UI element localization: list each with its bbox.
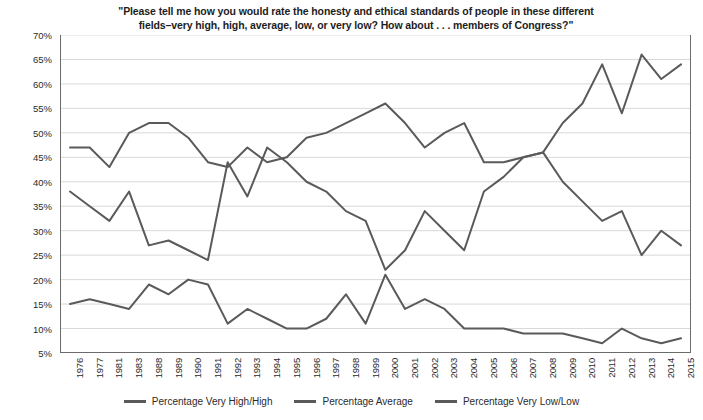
x-axis-tick-label: 2013 — [646, 358, 657, 378]
series-line — [70, 55, 681, 168]
legend-item[interactable]: Percentage Average — [294, 396, 412, 407]
x-axis-tick-label: 1996 — [311, 358, 322, 378]
chart-title-line-2: fields–very high, high, average, low, or… — [86, 18, 626, 32]
x-axis-tick-label: 2000 — [389, 358, 400, 378]
chart-legend: Percentage Very High/HighPercentage Aver… — [0, 396, 703, 407]
y-axis-tick-label: 45% — [14, 152, 52, 163]
x-axis-tick-label: 1981 — [113, 358, 124, 378]
chart-title: "Please tell me how you would rate the h… — [86, 4, 626, 32]
x-axis-tick-label: 1998 — [350, 358, 361, 378]
plot-area — [60, 35, 691, 353]
x-axis-tick-label: 2015 — [685, 358, 696, 378]
legend-swatch-icon — [294, 400, 316, 403]
x-axis-tick-label: 2002 — [429, 358, 440, 378]
x-axis-tick-label: 1988 — [153, 358, 164, 378]
x-axis-tick-label: 2011 — [606, 358, 617, 378]
legend-swatch-icon — [435, 400, 457, 403]
series-line — [70, 275, 681, 344]
x-axis-tick-label: 1993 — [251, 358, 262, 378]
x-axis-tick-label: 1983 — [133, 358, 144, 378]
y-axis-tick-label: 25% — [14, 250, 52, 261]
x-axis-tick-label: 2010 — [586, 358, 597, 378]
y-axis-tick-label: 40% — [14, 176, 52, 187]
x-axis-tick-label: 2004 — [468, 358, 479, 378]
chart-title-line-1: "Please tell me how you would rate the h… — [86, 4, 626, 18]
y-axis-tick-label: 15% — [14, 299, 52, 310]
x-axis-tick-label: 1995 — [291, 358, 302, 378]
x-axis-tick-label: 2009 — [567, 358, 578, 378]
legend-item[interactable]: Percentage Very Low/Low — [435, 396, 579, 407]
x-axis-tick-label: 1977 — [94, 358, 105, 378]
y-axis: 70%65%60%55%50%45%40%35%30%25%20%15%10%5… — [8, 35, 52, 353]
y-axis-tick-label: 10% — [14, 323, 52, 334]
legend-label: Percentage Very Low/Low — [463, 396, 579, 407]
y-axis-tick-label: 65% — [14, 54, 52, 65]
x-axis-tick-label: 2005 — [488, 358, 499, 378]
chart-container: "Please tell me how you would rate the h… — [0, 0, 703, 420]
y-axis-tick-label: 20% — [14, 274, 52, 285]
series-line — [70, 148, 681, 270]
legend-item[interactable]: Percentage Very High/High — [124, 396, 273, 407]
x-axis-tick-label: 2008 — [547, 358, 558, 378]
series-lines — [60, 35, 691, 353]
y-axis-tick-label: 60% — [14, 78, 52, 89]
x-axis-tick-label: 2014 — [665, 358, 676, 378]
legend-label: Percentage Average — [322, 396, 412, 407]
y-axis-tick-label: 70% — [14, 30, 52, 41]
x-axis-tick-label: 1991 — [212, 358, 223, 378]
x-axis-tick-label: 2001 — [409, 358, 420, 378]
y-axis-tick-label: 5% — [14, 348, 52, 359]
x-axis-tick-label: 2003 — [448, 358, 459, 378]
x-axis-tick-label: 1989 — [173, 358, 184, 378]
legend-label: Percentage Very High/High — [152, 396, 273, 407]
legend-swatch-icon — [124, 400, 146, 403]
x-axis-tick-label: 2007 — [527, 358, 538, 378]
y-axis-tick-label: 55% — [14, 103, 52, 114]
x-axis-tick-label: 1994 — [271, 358, 282, 378]
x-axis-tick-label: 1990 — [192, 358, 203, 378]
x-axis-tick-label: 2006 — [508, 358, 519, 378]
x-axis-tick-label: 1976 — [74, 358, 85, 378]
x-axis-tick-label: 1999 — [370, 358, 381, 378]
x-axis-tick-label: 1997 — [330, 358, 341, 378]
x-axis-tick-label: 2012 — [626, 358, 637, 378]
y-axis-tick-label: 30% — [14, 225, 52, 236]
y-axis-tick-label: 35% — [14, 201, 52, 212]
y-axis-tick-label: 50% — [14, 127, 52, 138]
x-axis-tick-label: 1992 — [232, 358, 243, 378]
